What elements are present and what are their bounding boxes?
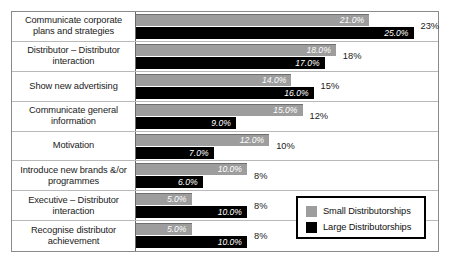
bar-value-label: 10.0% — [218, 237, 247, 247]
row-total-label: 8% — [254, 171, 267, 181]
row-total-label: 23% — [421, 21, 440, 31]
bar-value-label: 7.0% — [189, 148, 214, 158]
bar-large-distributorships: 10.0% — [136, 236, 247, 248]
bar-value-label: 21.0% — [340, 15, 369, 25]
category-label: Executive – Distributor interaction — [12, 191, 135, 220]
legend-item-small-distributorships: Small Distributorships — [306, 203, 424, 219]
chart-row: Distributor – Distributor interaction18.… — [12, 42, 438, 72]
bar-small-distributorships: 10.0% — [136, 163, 247, 175]
category-label: Show new advertising — [12, 72, 135, 101]
bars-area: 14.0%16.0%15% — [136, 72, 438, 101]
bar-value-label: 5.0% — [167, 224, 192, 234]
bars-area: 10.0%6.0%8% — [136, 161, 438, 190]
chart-row: Introduce new brands &/or programmes10.0… — [12, 161, 438, 191]
grouped-bar-chart: Communicate corporate plans and strategi… — [0, 0, 452, 269]
bar-value-label: 18.0% — [306, 45, 335, 55]
legend-item-large-distributorships: Large Distributorships — [306, 219, 424, 235]
bar-small-distributorships: 15.0% — [136, 104, 303, 116]
bar-value-label: 9.0% — [211, 118, 236, 128]
bar-large-distributorships: 16.0% — [136, 87, 314, 99]
bar-value-label: 10.0% — [218, 164, 247, 174]
bar-large-distributorships: 10.0% — [136, 206, 247, 218]
category-label: Motivation — [12, 132, 135, 161]
bar-small-distributorships: 14.0% — [136, 74, 291, 86]
bar-value-label: 14.0% — [262, 75, 291, 85]
bar-small-distributorships: 12.0% — [136, 134, 269, 146]
bars-area: 21.0%25.0%23% — [136, 12, 438, 41]
bar-value-label: 15.0% — [273, 105, 302, 115]
bar-small-distributorships: 21.0% — [136, 14, 369, 26]
chart-row: Show new advertising14.0%16.0%15% — [12, 72, 438, 102]
bars-area: 12.0%7.0%10% — [136, 132, 438, 161]
legend-label-small: Small Distributorships — [323, 206, 411, 216]
row-total-label: 8% — [254, 231, 267, 241]
legend-swatch-small-icon — [306, 206, 317, 217]
bar-large-distributorships: 25.0% — [136, 27, 414, 39]
chart-row: Motivation12.0%7.0%10% — [12, 132, 438, 162]
bars-area: 15.0%9.0%12% — [136, 102, 438, 131]
bar-value-label: 6.0% — [178, 177, 203, 187]
row-total-label: 8% — [254, 201, 267, 211]
chart-legend: Small Distributorships Large Distributor… — [296, 196, 426, 239]
row-total-label: 12% — [310, 111, 329, 121]
category-label: Distributor – Distributor interaction — [12, 42, 135, 71]
bar-small-distributorships: 18.0% — [136, 44, 336, 56]
row-total-label: 18% — [343, 51, 362, 61]
bar-value-label: 10.0% — [218, 207, 247, 217]
bar-value-label: 5.0% — [167, 194, 192, 204]
bar-large-distributorships: 6.0% — [136, 176, 203, 188]
legend-label-large: Large Distributorships — [323, 222, 411, 232]
bar-small-distributorships: 5.0% — [136, 193, 192, 205]
chart-row: Communicate corporate plans and strategi… — [12, 12, 438, 42]
bar-value-label: 16.0% — [284, 88, 313, 98]
bar-large-distributorships: 7.0% — [136, 147, 214, 159]
bar-large-distributorships: 9.0% — [136, 117, 236, 129]
bar-value-label: 17.0% — [295, 58, 324, 68]
category-label: Communicate general information — [12, 102, 135, 131]
legend-swatch-large-icon — [306, 222, 317, 233]
bar-value-label: 25.0% — [384, 28, 413, 38]
bar-large-distributorships: 17.0% — [136, 57, 325, 69]
row-total-label: 15% — [321, 81, 340, 91]
category-label: Recognise distributor achievement — [12, 221, 135, 251]
bars-area: 18.0%17.0%18% — [136, 42, 438, 71]
category-label: Communicate corporate plans and strategi… — [12, 12, 135, 41]
row-total-label: 10% — [276, 141, 295, 151]
category-label: Introduce new brands &/or programmes — [12, 161, 135, 190]
chart-row: Communicate general information15.0%9.0%… — [12, 102, 438, 132]
bar-value-label: 12.0% — [240, 135, 269, 145]
bar-small-distributorships: 5.0% — [136, 223, 192, 235]
